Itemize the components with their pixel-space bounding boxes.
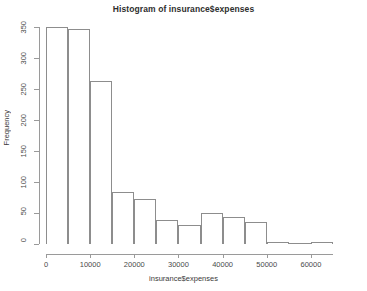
plot-panel	[46, 22, 333, 244]
x-tick-label: 20000	[124, 260, 145, 269]
x-tick-label: 40000	[212, 260, 233, 269]
x-tick-label: 60000	[300, 260, 321, 269]
y-tick	[34, 182, 39, 183]
x-tick	[46, 254, 47, 258]
x-tick	[134, 254, 135, 258]
histogram-bar	[68, 29, 90, 244]
y-tick-label: 150	[19, 145, 29, 158]
histogram-plot: Histogram of insurance$expenses Frequenc…	[0, 0, 367, 291]
histogram-bar	[245, 222, 267, 244]
histogram-bar	[178, 225, 200, 244]
histogram-bar	[201, 213, 223, 244]
histogram-bar	[112, 192, 134, 244]
histogram-bar	[134, 199, 156, 244]
y-axis-line	[39, 27, 40, 244]
y-tick	[34, 120, 39, 121]
y-tick	[34, 244, 39, 245]
y-tick	[34, 151, 39, 152]
histogram-bar	[46, 27, 68, 244]
y-tick-label: 0	[19, 238, 29, 242]
x-tick	[178, 254, 179, 258]
x-tick-label: 10000	[80, 260, 101, 269]
x-tick	[223, 254, 224, 258]
histogram-bar	[223, 217, 245, 244]
x-tick	[267, 254, 268, 258]
histogram-bar	[267, 242, 289, 244]
y-tick-label: 250	[19, 83, 29, 96]
y-tick-label: 50	[19, 207, 29, 215]
y-tick-label: 100	[19, 176, 29, 189]
x-tick-label: 30000	[168, 260, 189, 269]
histogram-bar	[289, 243, 311, 244]
y-tick-label: 200	[19, 114, 29, 127]
y-tick	[34, 213, 39, 214]
histogram-bar	[311, 242, 333, 244]
y-tick-label: 300	[19, 52, 29, 65]
x-axis-title: insurance$expenses	[0, 274, 367, 283]
y-tick	[34, 58, 39, 59]
x-tick-label: 50000	[256, 260, 277, 269]
x-axis-line	[46, 254, 333, 255]
chart-title: Histogram of insurance$expenses	[0, 4, 367, 14]
y-tick	[34, 89, 39, 90]
histogram-bar	[90, 81, 112, 244]
y-tick	[34, 27, 39, 28]
x-tick-label: 0	[44, 260, 48, 269]
y-tick-label: 350	[19, 21, 29, 34]
histogram-bar	[156, 220, 178, 244]
x-tick	[90, 254, 91, 258]
x-tick	[311, 254, 312, 258]
